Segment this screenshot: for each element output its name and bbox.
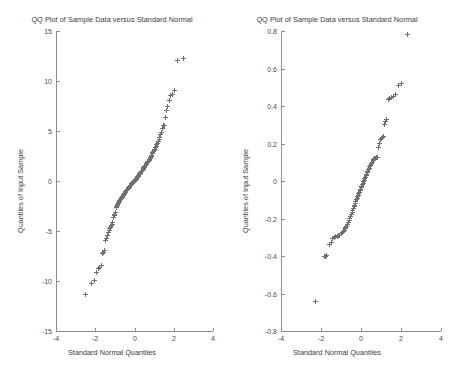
y-axis-label-left: Quantiles of Input Sample [16, 149, 25, 233]
data-point-marker [128, 183, 133, 188]
data-point-marker [357, 190, 362, 195]
y-axis-tick-label: -0.8 [233, 328, 277, 335]
data-point-marker [337, 233, 342, 238]
data-point-marker [137, 172, 142, 177]
data-point-marker [358, 187, 363, 192]
plot-area-left: -15-10-5051015-4-2024 [56, 31, 213, 331]
data-point-marker [144, 161, 149, 166]
data-point-marker [142, 165, 147, 170]
data-point-marker [327, 242, 332, 247]
data-point-marker [343, 225, 348, 230]
data-point-marker [129, 182, 134, 187]
data-point-marker [383, 119, 388, 124]
data-point-marker [167, 98, 172, 103]
data-point-marker [123, 190, 128, 195]
data-point-marker [155, 141, 160, 146]
data-point-marker [103, 238, 108, 243]
data-point-marker [119, 195, 124, 200]
y-axis-tick [57, 281, 60, 282]
data-point-marker [137, 171, 142, 176]
data-point-marker [371, 157, 376, 162]
x-axis-tick-label: -4 [53, 335, 59, 342]
x-axis-tick-label: 0 [133, 335, 137, 342]
data-point-marker [151, 149, 156, 154]
data-point-marker [134, 177, 139, 182]
data-point-marker [356, 191, 361, 196]
data-point-marker [359, 185, 364, 190]
data-point-marker [125, 187, 130, 192]
data-point-marker [332, 235, 337, 240]
y-axis-tick-label: 0 [233, 178, 277, 185]
data-point-marker [379, 136, 384, 141]
data-point-marker [355, 196, 360, 201]
data-point-marker [141, 167, 146, 172]
data-point-marker [136, 174, 141, 179]
data-point-marker [150, 150, 155, 155]
y-axis-tick [57, 131, 60, 132]
data-point-marker [175, 58, 180, 63]
data-point-marker [140, 168, 145, 173]
x-axis-tick [321, 328, 322, 331]
data-point-marker [372, 156, 377, 161]
data-point-marker [335, 234, 340, 239]
data-point-marker [94, 270, 99, 275]
data-point-marker [340, 230, 345, 235]
data-point-marker [149, 154, 154, 159]
data-point-marker [164, 108, 169, 113]
data-point-marker [100, 251, 105, 256]
data-point-marker [114, 205, 119, 210]
data-point-marker [157, 135, 162, 140]
data-point-marker [324, 253, 329, 258]
data-point-marker [373, 156, 378, 161]
qq-plot-panel-right: QQ Plot of Sample Data versus Standard N… [225, 0, 449, 379]
data-point-marker [131, 180, 136, 185]
data-point-marker [353, 199, 358, 204]
data-point-marker [132, 179, 137, 184]
data-point-marker [329, 240, 334, 245]
data-point-marker [160, 126, 165, 131]
data-point-marker [376, 145, 381, 150]
data-point-marker [361, 181, 366, 186]
data-point-marker [368, 163, 373, 168]
data-point-marker [361, 179, 366, 184]
data-point-marker [364, 173, 369, 178]
data-point-marker [112, 213, 117, 218]
data-point-marker [133, 178, 138, 183]
data-point-marker [149, 153, 154, 158]
data-point-marker [371, 158, 376, 163]
data-point-marker [92, 278, 97, 283]
data-point-marker [127, 184, 132, 189]
data-point-marker [336, 233, 341, 238]
data-point-marker [393, 92, 398, 97]
y-axis-tick [57, 31, 60, 32]
y-axis-tick-label: 5 [8, 128, 52, 135]
data-point-marker [129, 181, 134, 186]
data-point-marker [153, 145, 158, 150]
x-axis-spine [281, 331, 441, 332]
data-point-marker [333, 234, 338, 239]
y-axis-tick [57, 181, 60, 182]
data-point-marker [359, 184, 364, 189]
data-point-marker [125, 187, 130, 192]
plot-area-right: -0.8-0.6-0.4-0.200.20.40.60.8-4-2024 [281, 31, 441, 331]
data-point-marker [163, 115, 168, 120]
data-point-marker [154, 142, 159, 147]
data-point-marker [138, 170, 143, 175]
data-point-marker [399, 81, 404, 86]
data-point-marker [360, 182, 365, 187]
data-point-marker [129, 182, 134, 187]
data-point-marker [83, 292, 88, 297]
data-point-marker [143, 163, 148, 168]
data-point-marker [172, 88, 177, 93]
data-point-marker [159, 130, 164, 135]
y-axis-tick-label: -0.2 [233, 216, 277, 223]
data-point-marker [139, 169, 144, 174]
data-point-marker [119, 196, 124, 201]
data-point-marker [382, 122, 387, 127]
data-point-marker [121, 193, 126, 198]
data-point-marker [377, 141, 382, 146]
data-point-marker [157, 137, 162, 142]
data-point-marker [116, 200, 121, 205]
data-point-marker [127, 185, 132, 190]
data-point-marker [367, 164, 372, 169]
